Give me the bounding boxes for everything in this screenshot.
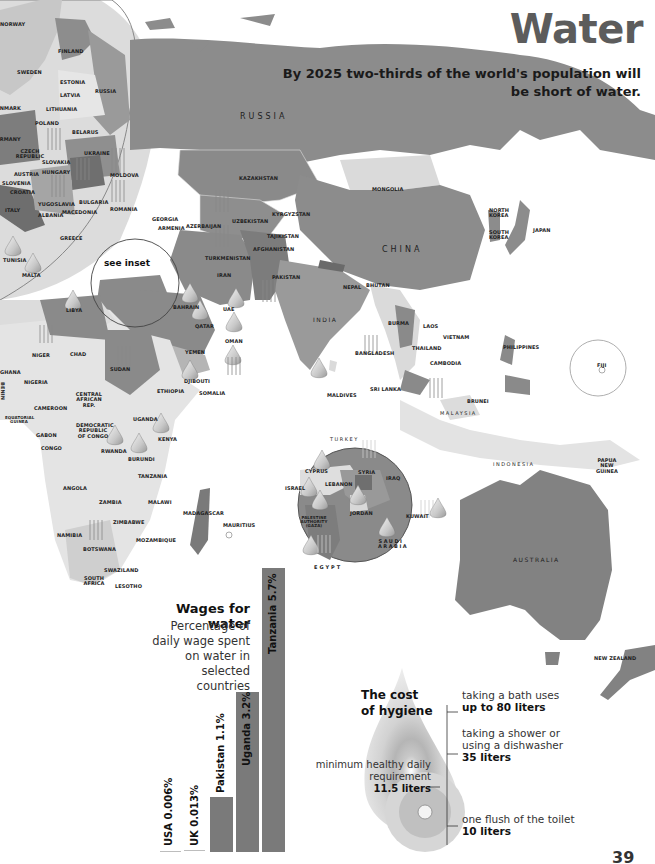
label-uganda: UGANDA bbox=[133, 417, 158, 422]
inset-label-cyprus: CYPRUS bbox=[305, 469, 328, 474]
inset-label-lebanon: LEBANON bbox=[325, 482, 353, 487]
bar-label-uganda: Uganda 3.2% bbox=[241, 692, 252, 766]
hygiene-bath-text: taking a bath uses bbox=[462, 689, 559, 701]
label-papua-new-guinea: PAPUA NEW GUINEA bbox=[596, 458, 618, 474]
bar-label-uk: UK 0.013% bbox=[189, 785, 200, 846]
hygiene-shower-text2: using a dishwasher bbox=[462, 739, 563, 751]
hygiene-bath: taking a bath uses up to 80 liters bbox=[462, 689, 559, 713]
hygiene-toilet: one flush of the toilet 10 liters bbox=[462, 813, 575, 837]
label-italy: ITALY bbox=[5, 208, 20, 213]
hygiene-minimum-text2: requirement bbox=[332, 771, 431, 783]
label-sweden: SWEDEN bbox=[17, 70, 42, 75]
label-croatia: CROATIA bbox=[10, 190, 35, 195]
label-fiji: FIJI bbox=[597, 363, 606, 368]
label-burundi: BURUNDI bbox=[128, 457, 155, 462]
label-malta: MALTA bbox=[22, 273, 41, 278]
label-iran: IRAN bbox=[217, 273, 231, 278]
label-congo: CONGO bbox=[41, 446, 62, 451]
label-denmark: DENMARK bbox=[0, 106, 21, 111]
label-ukraine: UKRAINE bbox=[84, 151, 110, 156]
label-slovenia: SLOVENIA bbox=[2, 181, 31, 186]
label-hungary: HUNGARY bbox=[42, 170, 70, 175]
hygiene-shower-value: 35 liters bbox=[462, 751, 511, 763]
label-somalia: SOMALIA bbox=[199, 391, 225, 396]
label-slovakia: SLOVAKIA bbox=[42, 160, 71, 165]
label-kazakhstan: KAZAKHSTAN bbox=[239, 176, 278, 181]
label-new-zealand: NEW ZEALAND bbox=[594, 656, 636, 661]
inset-label-jordan: JORDAN bbox=[350, 511, 373, 516]
inset-label-saudi: SAUDI ARABIA bbox=[378, 539, 404, 550]
label-north-korea: NORTH KOREA bbox=[489, 208, 511, 219]
inset-label-egypt: EGYPT bbox=[314, 565, 342, 570]
hygiene-toilet-text: one flush of the toilet bbox=[462, 813, 575, 825]
label-drc: DEMOCRATIC REPUBLIC OF CONGO bbox=[76, 423, 110, 439]
label-austria: AUSTRIA bbox=[14, 172, 39, 177]
label-tunisia: TUNISIA bbox=[3, 258, 27, 263]
label-zambia: ZAMBIA bbox=[99, 500, 122, 505]
label-macedonia: MACEDONIA bbox=[62, 210, 97, 215]
hygiene-title: The cost of hygiene bbox=[361, 687, 433, 719]
hygiene-shower-text1: taking a shower or bbox=[462, 727, 563, 739]
label-nepal: NEPAL bbox=[343, 285, 361, 290]
label-kyrgyzstan: KYRGYZSTAN bbox=[272, 212, 310, 217]
hygiene-bath-value: up to 80 liters bbox=[462, 701, 546, 713]
inset-label-syria: SYRIA bbox=[358, 470, 375, 475]
label-kenya: KENYA bbox=[158, 437, 177, 442]
label-oman: OMAN bbox=[225, 339, 243, 344]
label-russia: RUSSIA bbox=[240, 113, 287, 121]
inset-label-turkey: TURKEY bbox=[330, 437, 359, 442]
label-sudan: SUDAN bbox=[110, 367, 130, 372]
label-turkmenistan: TURKMENISTAN bbox=[205, 256, 251, 261]
label-thailand: THAILAND bbox=[412, 346, 442, 351]
label-afghanistan: AFGHANISTAN bbox=[253, 247, 294, 252]
label-nigeria: NIGERIA bbox=[24, 380, 48, 385]
label-malaysia: MALAYSIA bbox=[440, 411, 477, 416]
label-estonia: ESTONIA bbox=[60, 80, 85, 85]
label-norway: NORWAY bbox=[0, 22, 25, 27]
russia-shape bbox=[130, 39, 655, 165]
australia-shape bbox=[455, 470, 612, 640]
hygiene-shower: taking a shower or using a dishwasher 35… bbox=[462, 727, 563, 763]
label-angola: ANGOLA bbox=[63, 486, 87, 491]
label-mauritius: MAURITIUS bbox=[223, 523, 255, 528]
label-botswana: BOTSWANA bbox=[83, 547, 116, 552]
label-armenia: ARMENIA bbox=[158, 226, 185, 231]
label-namibia: NAMIBIA bbox=[57, 533, 82, 538]
label-bhutan: BHUTAN bbox=[366, 283, 390, 288]
label-benin: BENIN bbox=[0, 382, 5, 400]
inset-label-kuwait: KUWAIT bbox=[406, 514, 429, 519]
label-mozambique: MOZAMBIQUE bbox=[136, 538, 176, 543]
hygiene-minimum: minimum healthy daily requirement 11.5 l… bbox=[332, 759, 431, 795]
label-central-african-rep: CENTRAL AFRICAN REP. bbox=[72, 392, 106, 408]
label-yemen: YEMEN bbox=[185, 350, 205, 355]
hygiene-minimum-value: 11.5 liters bbox=[374, 783, 431, 794]
label-tanzania: TANZANIA bbox=[138, 474, 167, 479]
label-ghana: GHANA bbox=[0, 370, 21, 375]
label-malawi: MALAWI bbox=[148, 500, 172, 505]
label-djibouti: DJIBOUTI bbox=[184, 379, 210, 384]
label-lesotho: LESOTHO bbox=[115, 584, 142, 589]
bar-label-pakistan: Pakistan 1.1% bbox=[215, 713, 226, 793]
label-madagascar: MADAGASCAR bbox=[183, 511, 224, 516]
label-japan: JAPAN bbox=[533, 228, 551, 233]
label-czech: CZECH REPUBLIC bbox=[15, 149, 45, 160]
label-indonesia: INDONESIA bbox=[493, 462, 534, 467]
label-russia-small: RUSSIA bbox=[95, 89, 116, 94]
inset-label-palestine: PALESTINE AUTHORITY (Gaza) bbox=[300, 516, 328, 529]
label-equatorial-guinea: EQUATORIAL GUINEA bbox=[5, 416, 33, 424]
label-bulgaria: BULGARIA bbox=[79, 200, 108, 205]
label-maldives: MALDIVES bbox=[327, 393, 357, 398]
hygiene-toilet-value: 10 liters bbox=[462, 825, 511, 837]
label-moldova: MOLDOVA bbox=[110, 173, 139, 178]
label-yugoslavia: YUGOSLAVIA bbox=[38, 202, 75, 207]
label-sri-lanka: SRI LANKA bbox=[370, 387, 401, 392]
label-burma: BURMA bbox=[388, 321, 409, 326]
label-belarus: BELARUS bbox=[72, 130, 99, 135]
bar-uk bbox=[184, 850, 205, 851]
label-mongolia: MONGOLIA bbox=[372, 187, 403, 192]
page-subtitle: By 2025 two-thirds of the world's popula… bbox=[281, 65, 641, 101]
hygiene-minimum-text1: minimum healthy daily bbox=[312, 759, 431, 771]
hygiene-title-line2: of hygiene bbox=[361, 703, 433, 719]
label-bangladesh: BANGLADESH bbox=[355, 351, 394, 356]
label-gabon: GABON bbox=[36, 433, 57, 438]
